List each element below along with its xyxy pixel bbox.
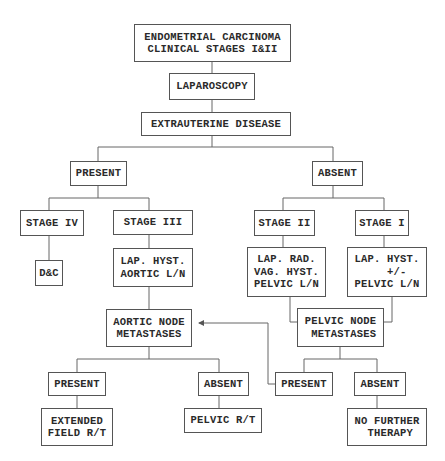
node-aortic-present: PRESENT: [48, 372, 106, 396]
node-no-further-therapy: NO FURTHER THERAPY: [347, 408, 427, 446]
node-stage-iv: STAGE IV: [20, 210, 84, 236]
node-lap-rad-vag-hyst: LAP. RAD. VAG. HYST. PELVIC L/N: [247, 247, 326, 297]
node-endometrial-carcinoma: ENDOMETRIAL CARCINOMA CLINICAL STAGES I&…: [134, 24, 291, 62]
node-laparoscopy: LAPAROSCOPY: [169, 73, 255, 100]
node-stage-ii: STAGE II: [254, 210, 315, 236]
node-aortic-node-metastases: AORTIC NODE METASTASES: [106, 309, 192, 347]
node-pelvic-present: PRESENT: [275, 372, 333, 396]
node-lap-hyst-pelvic: LAP. HYST. +/- PELVIC L/N: [347, 247, 427, 297]
node-lap-hyst-aortic: LAP. HYST. AORTIC L/N: [113, 248, 193, 287]
node-aortic-absent: ABSENT: [198, 372, 249, 396]
node-dc: D&C: [35, 260, 63, 286]
node-extrauterine-disease: EXTRAUTERINE DISEASE: [141, 112, 291, 136]
node-pelvic-absent: ABSENT: [354, 372, 406, 396]
node-pelvic-rt: PELVIC R/T: [184, 408, 262, 433]
node-stage-i: STAGE I: [355, 210, 409, 236]
node-absent-extrauterine: ABSENT: [312, 161, 363, 186]
flowchart-canvas: ENDOMETRIAL CARCINOMA CLINICAL STAGES I&…: [0, 0, 445, 461]
node-stage-iii: STAGE III: [113, 210, 193, 235]
node-pelvic-node-metastases: PELVIC NODE METASTASES: [297, 308, 384, 347]
node-present-extrauterine: PRESENT: [70, 161, 127, 186]
node-extended-field-rt: EXTENDED FIELD R/T: [41, 408, 113, 446]
